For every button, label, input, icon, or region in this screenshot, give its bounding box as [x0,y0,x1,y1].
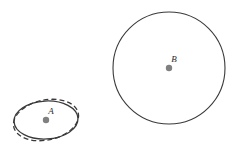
figure-svg: A B [0,0,239,158]
figure-canvas: A B [0,0,239,158]
shape-label-a: A [47,106,54,116]
shape-label-b: B [171,54,177,64]
center-dot-a [43,117,49,123]
center-dot-b [166,65,172,71]
